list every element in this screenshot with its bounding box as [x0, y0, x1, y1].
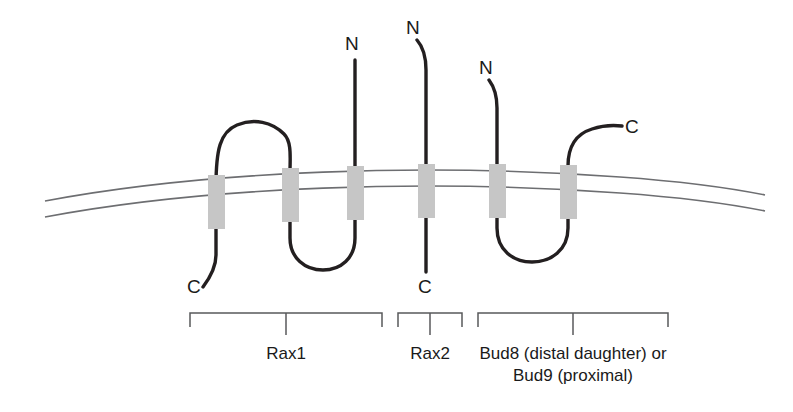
transmembrane-segments: [208, 164, 577, 229]
protein-label-bud-line1: Bud8 (distal daughter) or: [453, 343, 693, 364]
tm-segment-3: [347, 166, 364, 220]
terminus-label-rax1-c: C: [187, 277, 201, 296]
terminus-label-rax2-n: N: [406, 18, 420, 37]
tm-segment-2: [282, 168, 299, 222]
rax2-chain: [417, 40, 426, 272]
membrane-bilayer: [45, 170, 765, 217]
tm-segment-6: [560, 165, 577, 219]
tm-segment-1: [208, 175, 225, 229]
tm-segment-4: [418, 164, 435, 218]
terminus-label-rax2-c: C: [418, 277, 432, 296]
terminus-label-bud-c: C: [625, 117, 639, 136]
terminus-label-bud-n: N: [479, 58, 493, 77]
protein-brackets: [190, 313, 668, 335]
protein-label-bud-line2: Bud9 (proximal): [453, 365, 693, 386]
membrane-line-inner: [45, 186, 765, 217]
rax2-backbone: [417, 40, 426, 272]
terminus-label-rax1-n: N: [345, 34, 359, 53]
figure-canvas: N C N C N C Rax1 Rax2 Bud8 (distal daugh…: [0, 0, 793, 412]
protein-label-rax1: Rax1: [236, 343, 336, 364]
tm-segment-5: [489, 164, 506, 218]
